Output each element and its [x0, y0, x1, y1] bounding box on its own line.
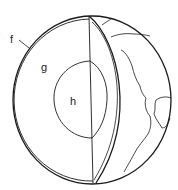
label-g: g — [41, 61, 47, 73]
crust-boundary — [14, 19, 93, 181]
continent-outline — [102, 18, 151, 172]
cut-line — [89, 16, 93, 183]
wedge-outer-edge — [89, 16, 120, 183]
earth-cross-section-diagram: f g h — [0, 0, 178, 190]
label-h: h — [70, 95, 76, 107]
wedge-inner-edge — [92, 22, 117, 180]
leader-line-f — [19, 40, 29, 48]
label-f: f — [10, 33, 14, 45]
core-right — [90, 61, 107, 138]
